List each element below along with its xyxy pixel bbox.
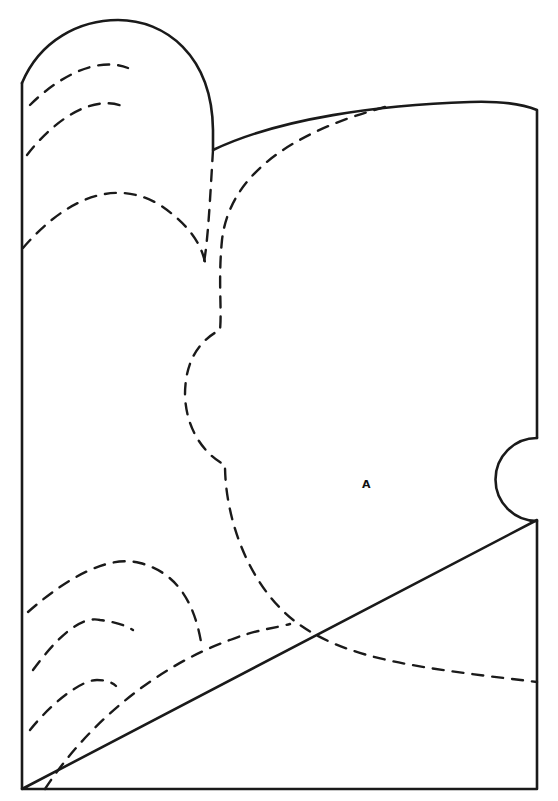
pattern-diagram: A — [0, 0, 558, 801]
background — [0, 0, 558, 801]
label-a: A — [362, 478, 371, 491]
